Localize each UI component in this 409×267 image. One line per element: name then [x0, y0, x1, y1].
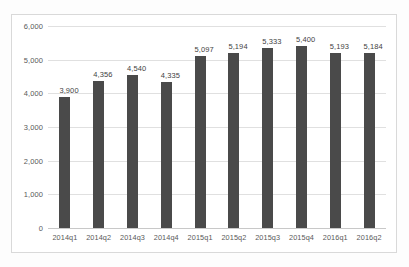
y-axis-tick-label: 3,000 [24, 123, 43, 132]
bar[interactable]: 4,540 [127, 75, 138, 228]
x-axis-tick-label: 2014q1 [52, 233, 77, 242]
bar-group: 3,9002014q1 [48, 97, 82, 228]
plot-area: 01,0002,0003,0004,0005,0006,0003,9002014… [48, 15, 386, 252]
bar[interactable]: 4,335 [161, 82, 172, 228]
x-axis-tick-label: 2015q1 [188, 233, 213, 242]
bar[interactable]: 3,900 [59, 97, 70, 228]
bar-value-label: 5,400 [296, 35, 315, 44]
y-axis-tick-label: 0 [39, 224, 43, 233]
bar-group: 5,1932016q1 [318, 53, 352, 228]
bar-group: 4,3562014q2 [82, 81, 116, 228]
bar-value-label: 5,097 [195, 45, 214, 54]
y-axis-tick-label: 4,000 [24, 89, 43, 98]
bar-group: 5,0972015q1 [183, 56, 217, 228]
y-axis-tick-label: 2,000 [24, 156, 43, 165]
bar-value-label: 5,333 [262, 37, 281, 46]
x-axis-tick-label: 2015q3 [255, 233, 280, 242]
x-axis-tick-label: 2015q4 [289, 233, 314, 242]
bar[interactable]: 5,097 [195, 56, 206, 228]
bar-group: 4,3352014q4 [149, 82, 183, 228]
y-axis-tick-label: 1,000 [24, 190, 43, 199]
bar[interactable]: 5,184 [364, 53, 375, 228]
bar[interactable]: 5,333 [262, 48, 273, 228]
bar[interactable]: 4,356 [93, 81, 104, 228]
bar-value-label: 3,900 [59, 86, 78, 95]
bar[interactable]: 5,193 [330, 53, 341, 228]
bar-value-label: 5,184 [364, 42, 383, 51]
bar-group: 5,1842016q2 [352, 53, 386, 228]
bar-group: 4,5402014q3 [116, 75, 150, 228]
x-axis-tick-label: 2016q1 [323, 233, 348, 242]
x-axis-tick-label: 2014q3 [120, 233, 145, 242]
bar-value-label: 4,356 [93, 70, 112, 79]
bar-group: 5,1942015q2 [217, 53, 251, 228]
gridline [48, 26, 386, 27]
axis-baseline [48, 228, 386, 229]
bar-value-label: 4,540 [127, 64, 146, 73]
y-axis-tick-label: 6,000 [24, 22, 43, 31]
bar-value-label: 5,193 [330, 42, 349, 51]
x-axis-tick-label: 2014q2 [86, 233, 111, 242]
bar[interactable]: 5,400 [296, 46, 307, 228]
bar-value-label: 5,194 [228, 42, 247, 51]
bar-value-label: 4,335 [161, 71, 180, 80]
bar-group: 5,4002015q4 [285, 46, 319, 228]
x-axis-tick-label: 2015q2 [221, 233, 246, 242]
x-axis-tick-label: 2014q4 [154, 233, 179, 242]
bar-group: 5,3332015q3 [251, 48, 285, 228]
chart-container: 01,0002,0003,0004,0005,0006,0003,9002014… [11, 14, 397, 253]
x-axis-tick-label: 2016q2 [357, 233, 382, 242]
bar[interactable]: 5,194 [228, 53, 239, 228]
y-axis-tick-label: 5,000 [24, 55, 43, 64]
